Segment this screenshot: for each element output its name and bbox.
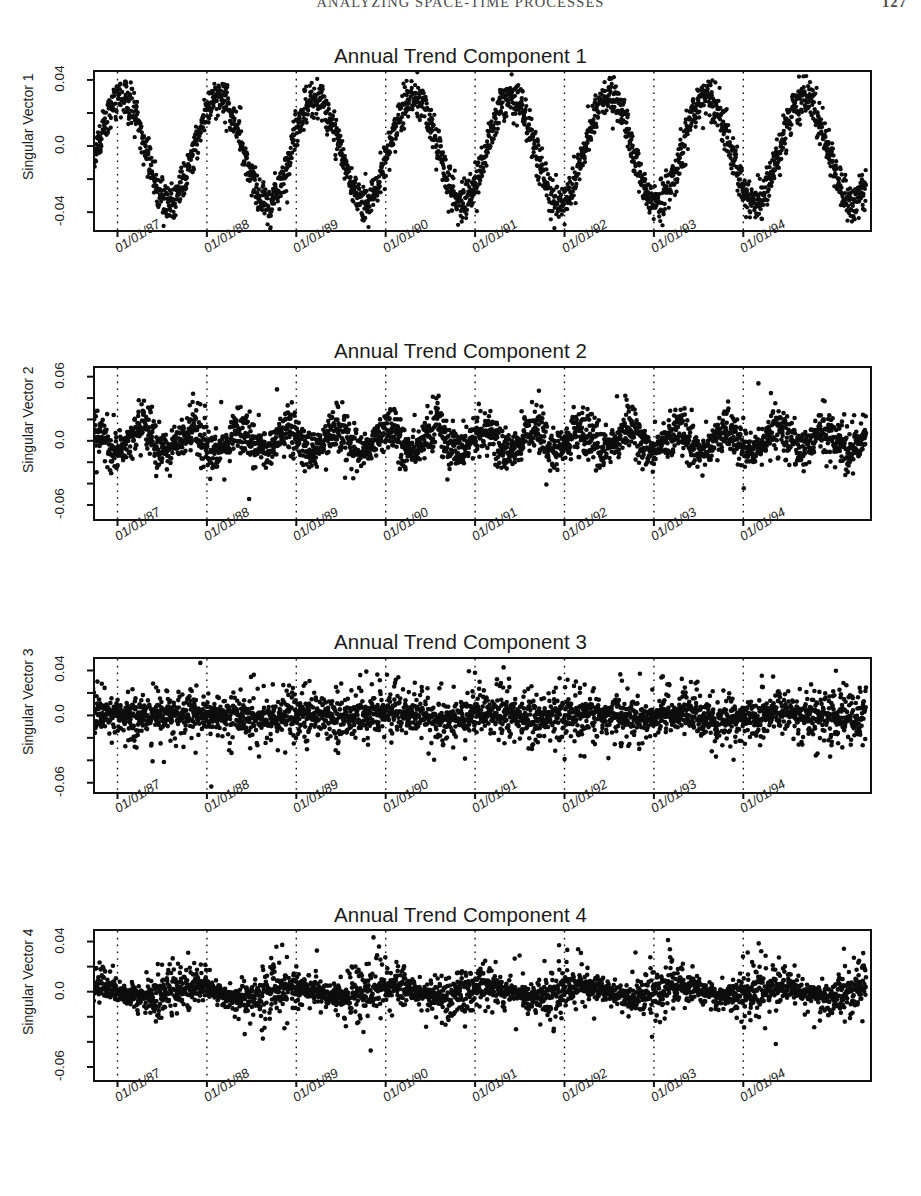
chart-title-3: Annual Trend Component 3 xyxy=(0,630,921,654)
y-tick-label: -0.04 xyxy=(52,183,67,239)
y-tick-label: 0.0 xyxy=(52,962,67,1018)
chart-title-4: Annual Trend Component 4 xyxy=(0,903,921,927)
y-tick-label: -0.06 xyxy=(52,753,67,809)
scatter-plot-area-3 xyxy=(95,659,870,792)
y-tick-label: 0.0 xyxy=(52,411,67,467)
y-tick-label: 0.0 xyxy=(52,686,67,742)
y-axis-label-2: Singular Vector 2 xyxy=(20,413,36,473)
chart-title-1: Annual Trend Component 1 xyxy=(0,44,921,68)
scatter-plot-area-4 xyxy=(95,931,870,1080)
running-head-title: ANALYZING SPACE-TIME PROCESSES xyxy=(316,0,604,11)
data-points xyxy=(95,661,868,789)
chart-title-2: Annual Trend Component 2 xyxy=(0,339,921,363)
scatter-plot-area-2 xyxy=(95,368,870,519)
scatter-plot-area-1 xyxy=(95,72,870,230)
y-axis-label-1: Singular Vector 1 xyxy=(20,120,36,180)
data-points xyxy=(95,935,868,1053)
y-axis-ticks-2 xyxy=(85,366,95,521)
data-points xyxy=(95,72,868,230)
page-number: 127 xyxy=(882,0,907,11)
y-axis-ticks-3 xyxy=(85,657,95,794)
y-tick-label: 0.06 xyxy=(52,347,67,403)
data-points xyxy=(95,381,868,501)
y-tick-label: -0.06 xyxy=(52,1037,67,1093)
y-axis-ticks-4 xyxy=(85,929,95,1082)
running-head: ANALYZING SPACE-TIME PROCESSES 127 xyxy=(0,0,921,12)
y-tick-label: 0.04 xyxy=(52,50,67,106)
y-axis-label-3: Singular Vector 3 xyxy=(20,695,36,755)
y-tick-label: -0.06 xyxy=(52,475,67,531)
y-axis-label-4: Singular Vector 4 xyxy=(20,975,36,1035)
y-tick-label: 0.0 xyxy=(52,117,67,173)
y-tick-label: 0.04 xyxy=(52,912,67,968)
y-axis-ticks-1 xyxy=(85,70,95,232)
